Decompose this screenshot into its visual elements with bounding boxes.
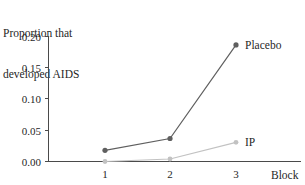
y-axis-ticks — [45, 37, 49, 162]
x-axis-title: Block — [271, 169, 299, 181]
series-label-ip: IP — [245, 136, 255, 148]
series-placebo-point-block-2 — [167, 136, 172, 141]
y-tick-label-4: 0.00 — [22, 156, 42, 168]
y-tick-label-3: 0.05 — [22, 125, 42, 137]
y-tick-label-1: 0.15 — [22, 62, 42, 74]
series-placebo-point-block-1 — [102, 148, 107, 153]
y-tick-label-2: 0.10 — [22, 93, 42, 105]
x-tick-label-0: 1 — [102, 168, 108, 180]
series-ip-point-block-1 — [103, 159, 108, 164]
series-ip — [103, 140, 239, 164]
series-ip-point-block-2 — [168, 157, 173, 162]
series-placebo-line — [105, 45, 236, 150]
x-tick-label-1: 2 — [167, 168, 173, 180]
series-ip-point-block-3 — [234, 140, 239, 145]
y-tick-label-0: 0.20 — [22, 31, 42, 43]
x-tick-label-2: 3 — [233, 168, 239, 180]
aids-proportion-line-chart: Proportion that developed AIDS 0.20 0.15… — [0, 0, 305, 185]
series-label-placebo: Placebo — [245, 39, 282, 51]
series-placebo — [102, 42, 238, 153]
plot-area: 0.20 0.15 0.10 0.05 0.00 1 2 3 Block Pla… — [0, 0, 305, 185]
series-placebo-point-block-3 — [233, 42, 238, 47]
